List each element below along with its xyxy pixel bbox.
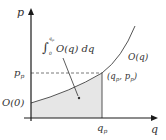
shaded-integral-area: [31, 73, 102, 118]
svg-text:∫: ∫: [42, 40, 49, 55]
annotation-arrow-head-icon: [78, 97, 80, 99]
integral-label: ∫ 0 qp O(q) dq: [42, 36, 94, 56]
x-axis-arrow-icon: [151, 115, 158, 121]
y-axis-label: p: [17, 6, 24, 19]
q-p-label: qp: [97, 122, 107, 135]
p-p-label: pp: [14, 67, 24, 80]
supply-curve-diagram: p q pp O(0) qp O(q) (qp, pp) ∫ 0 qp O(q)…: [0, 0, 166, 140]
x-axis-label: q: [151, 123, 158, 136]
intercept-label: O(0): [2, 97, 24, 108]
svg-text:O(q) dq: O(q) dq: [56, 43, 94, 54]
svg-text:qp: qp: [49, 36, 55, 42]
curve-label: O(q): [128, 52, 149, 62]
svg-text:0: 0: [49, 51, 52, 56]
point-label: (qp, pp): [107, 71, 137, 83]
y-axis-arrow-icon: [28, 8, 34, 15]
